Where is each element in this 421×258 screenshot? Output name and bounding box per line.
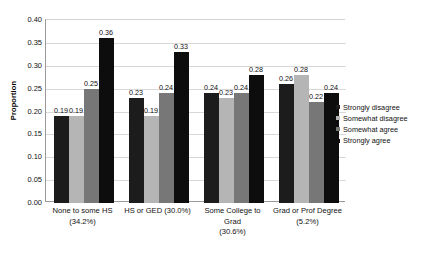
bar-wrapper: 0.23: [219, 20, 234, 203]
bar-value-label: 0.24: [204, 83, 218, 92]
x-axis-category-label-line: (30.6%): [195, 227, 270, 238]
y-axis-tick-label: 0.40: [12, 15, 42, 24]
bar[interactable]: [219, 98, 234, 203]
legend-item[interactable]: Somewhat agree: [336, 124, 421, 135]
bar[interactable]: [69, 116, 84, 203]
y-axis-tick-label: 0.05: [12, 175, 42, 184]
bar-wrapper: 0.26: [279, 20, 294, 203]
y-axis-tick-label: 0.20: [12, 106, 42, 115]
x-axis-category-label: HS or GED (30.0%): [120, 206, 195, 217]
legend: Strongly disagreeSomewhat disagreeSomewh…: [336, 102, 421, 146]
bar[interactable]: [159, 93, 174, 203]
x-axis-category-label-line: None to some HS: [45, 206, 120, 217]
bar-value-label: 0.33: [174, 42, 188, 51]
y-axis-tick-label: 0.30: [12, 60, 42, 69]
bar[interactable]: [99, 38, 114, 203]
bar-chart: Proportion 0.400.350.300.250.200.150.100…: [0, 0, 421, 258]
bar-wrapper: 0.24: [159, 20, 174, 203]
x-axis-category-labels: None to some HS(34.2%)HS or GED (30.0%)S…: [45, 206, 345, 246]
bar-wrapper: 0.25: [84, 20, 99, 203]
bar[interactable]: [234, 93, 249, 203]
bar[interactable]: [174, 52, 189, 203]
bar-value-label: 0.25: [84, 79, 98, 88]
bar-value-label: 0.24: [234, 83, 248, 92]
bar-value-label: 0.19: [54, 106, 68, 115]
legend-label: Somewhat agree: [343, 125, 398, 134]
bar[interactable]: [294, 75, 309, 203]
legend-item[interactable]: Strongly agree: [336, 135, 421, 146]
plot-area: 0.190.190.250.360.230.190.240.330.240.23…: [45, 19, 345, 202]
bar[interactable]: [249, 75, 264, 203]
y-axis-tick-label: 0.15: [12, 129, 42, 138]
y-axis-tick-label: 0.25: [12, 83, 42, 92]
bar-value-label: 0.24: [159, 83, 173, 92]
bar-value-label: 0.28: [249, 65, 263, 74]
bar-wrapper: 0.24: [234, 20, 249, 203]
bar-value-label: 0.19: [144, 106, 158, 115]
x-axis-category-label-line: (34.2%): [45, 217, 120, 228]
legend-label: Strongly agree: [343, 136, 390, 145]
bar-wrapper: 0.23: [129, 20, 144, 203]
bar-wrapper: 0.36: [99, 20, 114, 203]
bar[interactable]: [84, 89, 99, 203]
legend-swatch-icon: [336, 139, 340, 143]
x-axis-category-label: Some College to Grad(30.6%): [195, 206, 270, 238]
bar[interactable]: [129, 98, 144, 203]
bar-group: 0.190.190.250.36: [54, 20, 114, 203]
y-axis-tick-label: 0.35: [12, 37, 42, 46]
legend-swatch-icon: [336, 127, 340, 131]
bar-wrapper: 0.22: [309, 20, 324, 203]
legend-item[interactable]: Strongly disagree: [336, 102, 421, 113]
bar-value-label: 0.26: [279, 74, 293, 83]
x-axis-category-label-line: Grad or Prof Degree: [270, 206, 345, 217]
x-axis-category-label-line: Some College to Grad: [195, 206, 270, 227]
bar-value-label: 0.19: [69, 106, 83, 115]
bar[interactable]: [54, 116, 69, 203]
legend-swatch-icon: [336, 105, 340, 109]
y-axis-tick-label: 0.10: [12, 152, 42, 161]
bar-value-label: 0.24: [324, 83, 338, 92]
legend-item[interactable]: Somewhat disagree: [336, 113, 421, 124]
bar-group: 0.260.280.220.24: [279, 20, 339, 203]
y-axis-tick-labels: 0.400.350.300.250.200.150.100.050.00: [12, 19, 42, 202]
bar-wrapper: 0.19: [144, 20, 159, 203]
legend-label: Strongly disagree: [343, 103, 400, 112]
bars-layer: 0.190.190.250.360.230.190.240.330.240.23…: [46, 20, 346, 203]
bar-wrapper: 0.19: [54, 20, 69, 203]
x-axis-category-label-line: HS or GED (30.0%): [120, 206, 195, 217]
x-axis-category-label: Grad or Prof Degree(5.2%): [270, 206, 345, 227]
bar-value-label: 0.23: [129, 88, 143, 97]
bar[interactable]: [309, 102, 324, 203]
x-axis-category-label: None to some HS(34.2%): [45, 206, 120, 227]
bar-wrapper: 0.24: [204, 20, 219, 203]
bar-value-label: 0.22: [309, 92, 323, 101]
bar[interactable]: [279, 84, 294, 203]
bar-group: 0.230.190.240.33: [129, 20, 189, 203]
bar[interactable]: [204, 93, 219, 203]
bar-wrapper: 0.28: [249, 20, 264, 203]
bar-value-label: 0.28: [294, 65, 308, 74]
bar-group: 0.240.230.240.28: [204, 20, 264, 203]
legend-swatch-icon: [336, 116, 340, 120]
bar-value-label: 0.36: [99, 28, 113, 37]
bar-wrapper: 0.19: [69, 20, 84, 203]
bar[interactable]: [144, 116, 159, 203]
bar-wrapper: 0.33: [174, 20, 189, 203]
bar-value-label: 0.23: [219, 88, 233, 97]
x-axis-category-label-line: (5.2%): [270, 217, 345, 228]
y-axis-tick-label: 0.00: [12, 198, 42, 207]
bar-wrapper: 0.28: [294, 20, 309, 203]
legend-label: Somewhat disagree: [343, 114, 408, 123]
